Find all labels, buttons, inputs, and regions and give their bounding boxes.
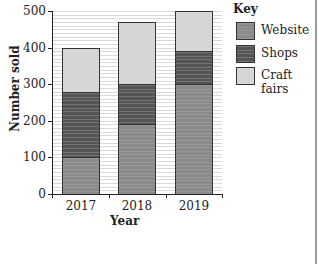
y-tick	[48, 121, 52, 122]
legend-swatch-website	[236, 22, 255, 40]
bar-2018-shops	[118, 84, 156, 125]
bar-2017-shops	[62, 92, 100, 159]
y-tick-label: 500	[10, 5, 46, 17]
x-axis-title: Year	[110, 214, 139, 228]
bar-2019-website	[175, 84, 213, 195]
x-tick	[52, 194, 53, 198]
bar-2017-craft-fairs	[62, 48, 100, 93]
bar-2017-website	[62, 157, 100, 195]
y-tick	[48, 48, 52, 49]
x-axis	[52, 194, 223, 195]
y-axis	[52, 11, 53, 195]
y-tick-label: 0	[10, 188, 46, 200]
bar-2019-craft-fairs	[175, 11, 213, 52]
legend-label-craft-fairs: Craft fairs	[261, 68, 319, 96]
bar-2018-website	[118, 124, 156, 195]
x-tick	[166, 194, 167, 198]
legend-label-shops: Shops	[261, 46, 298, 60]
y-tick-label: 100	[10, 151, 46, 163]
x-tick	[222, 194, 223, 198]
legend-title: Key	[233, 2, 258, 16]
x-tick	[109, 194, 110, 198]
x-tick-label: 2019	[169, 199, 219, 213]
y-tick	[48, 157, 52, 158]
bar-2019-shops	[175, 51, 213, 85]
legend-swatch-craft-fairs	[236, 67, 255, 85]
x-tick-label: 2017	[56, 199, 106, 213]
legend-label-website: Website	[261, 23, 309, 37]
panel-border	[315, 0, 317, 264]
y-tick	[48, 11, 52, 12]
x-tick-label: 2018	[112, 199, 162, 213]
y-tick	[48, 84, 52, 85]
y-axis-title: Number sold	[8, 62, 22, 132]
legend-swatch-shops	[236, 45, 255, 63]
bar-2018-craft-fairs	[118, 22, 156, 85]
